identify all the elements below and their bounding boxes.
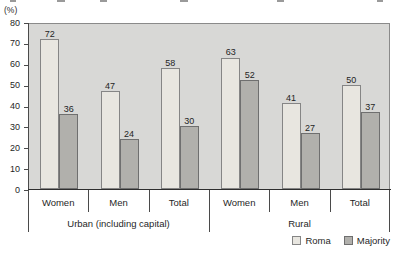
bar-value-label: 24 xyxy=(110,129,149,140)
bar-chart-figure: (%) 01020304050607080 723647245830635241… xyxy=(0,0,393,253)
cropped-title-fragment xyxy=(100,0,107,2)
majority-swatch-icon xyxy=(344,236,353,245)
x-category-label-6-total: Total xyxy=(330,197,390,208)
cropped-title-fragment xyxy=(57,0,65,2)
cropped-title-fragment xyxy=(180,0,188,2)
bar-roma-3-total xyxy=(161,68,180,189)
y-tick-label-10: 10 xyxy=(0,164,20,175)
legend-label-roma: Roma xyxy=(305,235,330,246)
x-group-label-rural: Rural xyxy=(209,218,390,230)
group-separator-line xyxy=(28,190,29,232)
bar-value-label: 36 xyxy=(49,104,88,115)
bar-value-label: 30 xyxy=(170,116,209,127)
category-separator-line xyxy=(269,190,270,212)
bar-value-label: 58 xyxy=(151,58,190,69)
cropped-title-fragment xyxy=(277,0,284,2)
bar-value-label: 72 xyxy=(30,29,69,40)
x-group-label-urban: Urban (including capital) xyxy=(28,218,209,230)
y-tick-mark xyxy=(24,190,28,191)
cropped-title-fragment xyxy=(10,0,16,2)
category-separator-line xyxy=(88,190,89,212)
bar-majority-1-women xyxy=(59,114,78,189)
x-category-label-2-men: Men xyxy=(88,197,148,208)
y-axis-line xyxy=(28,23,29,190)
y-tick-label-30: 30 xyxy=(0,122,20,133)
bar-value-label: 27 xyxy=(291,123,330,134)
x-category-label-5-men: Men xyxy=(269,197,329,208)
category-separator-line xyxy=(330,190,331,212)
bar-roma-5-men xyxy=(282,103,301,189)
x-category-label-3-total: Total xyxy=(149,197,209,208)
legend-item-majority: Majority xyxy=(344,235,390,246)
group-separator-line xyxy=(389,190,390,232)
cropped-title-fragment xyxy=(377,0,383,2)
y-tick-label-0: 0 xyxy=(0,185,20,196)
y-tick-label-50: 50 xyxy=(0,80,20,91)
x-axis-line xyxy=(28,189,391,190)
group-separator-line xyxy=(209,190,210,232)
bar-majority-3-total xyxy=(180,126,199,189)
bar-value-label: 47 xyxy=(91,81,130,92)
bar-roma-2-men xyxy=(101,91,120,189)
x-category-label-1-women: Women xyxy=(28,197,88,208)
bar-majority-6-total xyxy=(361,112,380,189)
category-separator-line xyxy=(149,190,150,212)
y-tick-label-80: 80 xyxy=(0,18,20,29)
bar-value-label: 52 xyxy=(230,70,269,81)
roma-swatch-icon xyxy=(292,236,301,245)
bar-value-label: 41 xyxy=(272,93,311,104)
bar-majority-2-men xyxy=(120,139,139,189)
plot-area: 723647245830635241275037 xyxy=(28,23,390,190)
y-tick-label-40: 40 xyxy=(0,101,20,112)
bar-majority-4-women xyxy=(240,80,259,189)
bar-value-label: 37 xyxy=(351,102,390,113)
bar-majority-5-men xyxy=(301,133,320,189)
legend: Roma Majority xyxy=(292,235,390,246)
legend-label-majority: Majority xyxy=(357,235,390,246)
y-tick-label-70: 70 xyxy=(0,38,20,49)
legend-item-roma: Roma xyxy=(292,235,330,246)
bar-value-label: 63 xyxy=(211,47,250,58)
y-axis-unit-label: (%) xyxy=(4,5,17,15)
bar-roma-6-total xyxy=(342,85,361,189)
bar-value-label: 50 xyxy=(332,75,371,86)
y-tick-label-20: 20 xyxy=(0,143,20,154)
x-category-label-4-women: Women xyxy=(209,197,269,208)
y-tick-label-60: 60 xyxy=(0,59,20,70)
